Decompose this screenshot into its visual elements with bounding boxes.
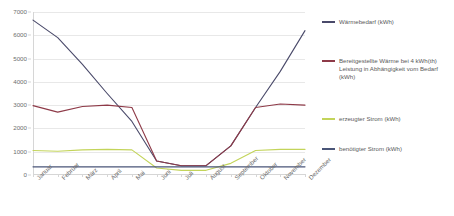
- x-tick-mark: [132, 174, 133, 177]
- x-tick-label: Dezember: [307, 156, 332, 181]
- line-chart: 01000200030004000500060007000 JanuarFebr…: [0, 0, 454, 216]
- y-tick-label: 5000: [13, 55, 27, 61]
- legend-label: benötigter Strom (kWh): [339, 145, 402, 153]
- legend-label: Wärmebedarf (kWh): [339, 18, 394, 26]
- x-tick-mark: [157, 174, 158, 177]
- y-tick-mark: [28, 105, 31, 106]
- series-line-2: [33, 104, 305, 166]
- x-tick-mark: [280, 174, 281, 177]
- y-tick-label: 6000: [13, 32, 27, 38]
- y-tick-label: 2000: [13, 125, 27, 131]
- legend-item[interactable]: benötigter Strom (kWh): [322, 145, 454, 153]
- x-tick-mark: [82, 174, 83, 177]
- x-tick-mark: [181, 174, 182, 177]
- legend-item[interactable]: erzeugter Strom (kWh): [322, 115, 454, 123]
- y-tick-label: 1000: [13, 149, 27, 155]
- legend-swatch-icon: [322, 60, 335, 62]
- y-axis: 01000200030004000500060007000: [0, 12, 31, 175]
- x-axis: JanuarFebruarMärzAprilMaiJuniJuliAugustS…: [33, 176, 305, 216]
- legend-label: Bereitgestellte Wärme bei 4 kWh(th) Leis…: [339, 57, 454, 82]
- legend-swatch-icon: [322, 21, 335, 23]
- y-tick-mark: [28, 151, 31, 152]
- y-tick-mark: [28, 175, 31, 176]
- y-tick-label: 4000: [13, 79, 27, 85]
- x-tick-mark: [305, 174, 306, 177]
- x-tick-mark: [107, 174, 108, 177]
- x-tick-mark: [231, 174, 232, 177]
- legend-label: erzeugter Strom (kWh): [339, 115, 401, 123]
- x-tick-mark: [58, 174, 59, 177]
- legend-item[interactable]: Wärmebedarf (kWh): [322, 18, 454, 26]
- y-tick-mark: [28, 58, 31, 59]
- y-tick-mark: [28, 35, 31, 36]
- series-layer: [33, 12, 305, 175]
- y-tick-mark: [28, 128, 31, 129]
- y-tick-label: 3000: [13, 102, 27, 108]
- x-tick-mark: [256, 174, 257, 177]
- y-tick-mark: [28, 12, 31, 13]
- series-line-1: [33, 20, 305, 166]
- y-tick-mark: [28, 81, 31, 82]
- y-tick-label: 0: [24, 172, 27, 178]
- legend-swatch-icon: [322, 148, 335, 150]
- plot-area: [33, 12, 305, 175]
- x-tick-mark: [33, 174, 34, 177]
- legend-swatch-icon: [322, 118, 335, 120]
- legend-item[interactable]: Bereitgestellte Wärme bei 4 kWh(th) Leis…: [322, 57, 454, 82]
- y-tick-label: 7000: [13, 9, 27, 15]
- x-tick-mark: [206, 174, 207, 177]
